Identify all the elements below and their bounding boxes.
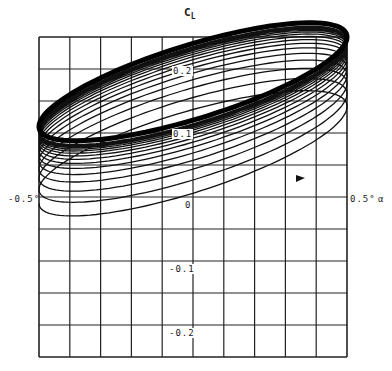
direction-arrow-icon — [296, 175, 305, 182]
x-zero-label: 0 — [185, 200, 191, 210]
x-max-label: 0.5° — [350, 194, 376, 204]
x-min-label: -0.5° — [8, 194, 40, 204]
plot-area — [0, 0, 392, 371]
x-axis-title: α — [378, 194, 384, 204]
y-label-neg-0.1: -0.1 — [168, 264, 196, 274]
y-label-neg-0.2: -0.2 — [168, 328, 196, 338]
y-label-0.1: 0.1 — [172, 129, 193, 139]
y-label-0.2: 0.2 — [172, 66, 193, 76]
y-axis-title: CL — [184, 6, 195, 21]
